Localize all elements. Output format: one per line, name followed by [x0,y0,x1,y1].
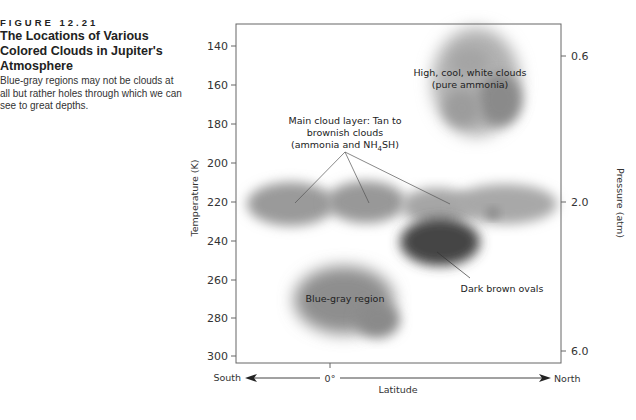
pressure-axis-title: Pressure (atm) [615,168,626,238]
tick-label: 140 [207,40,228,53]
tick-label: 260 [207,274,228,287]
annotation-line: Dark brown ovals [461,283,544,294]
dark-brown-ovals [400,218,480,266]
blue-gray-annotation: Blue-gray region [306,293,385,304]
tick-label: 300 [207,350,228,363]
annotation-line: brownish clouds [307,127,384,138]
south-label: South [213,372,241,383]
left-axis: 140 160 180 200 220 240 260 280 300 Temp… [189,40,236,363]
tick-label: 200 [207,157,228,170]
tick-label: 180 [207,118,228,131]
tick-label: 280 [207,312,228,325]
tick-label: 2.0 [571,196,589,209]
tick-label: 0.6 [571,50,589,63]
zero-latitude-label: 0° [325,373,336,384]
latitude-axis-title: Latitude [378,384,417,395]
annotation-line: (ammonia and NH4SH) [291,139,399,153]
temperature-axis-title: Temperature (K) [189,160,200,238]
annotation-line: Blue-gray region [306,293,385,304]
tick-label: 6.0 [571,345,589,358]
main-cloud-layer [247,181,557,226]
north-label: North [554,373,581,384]
annotation-line: (pure ammonia) [432,79,509,90]
tick-label: 160 [207,79,228,92]
tick-label: 220 [207,196,228,209]
cloud-diagram: 140 160 180 200 220 240 260 280 300 Temp… [0,0,636,420]
tick-label: 240 [207,235,228,248]
latitude-axis: South North 0° Latitude [213,363,580,395]
annotation-line: High, cool, white clouds [413,67,526,78]
right-axis: 0.6 2.0 6.0 Pressure (atm) [561,50,626,358]
annotation-line: Main cloud layer: Tan to [289,115,402,126]
